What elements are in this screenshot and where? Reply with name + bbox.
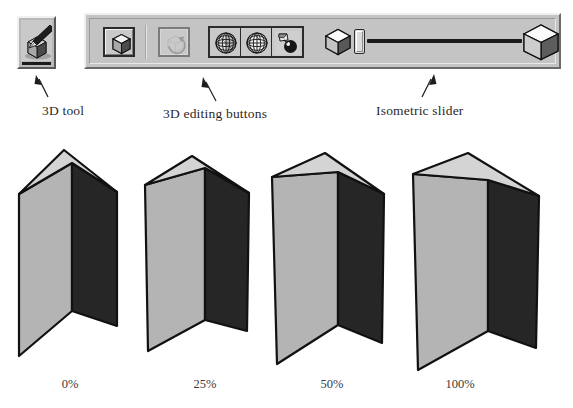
anno-isometric-slider-label: Isometric slider <box>376 103 464 119</box>
box-preview-50 <box>272 153 384 364</box>
box-caption-0: 0% <box>40 377 100 392</box>
lighting-button[interactable] <box>272 28 302 56</box>
3d-toolbar <box>84 13 561 69</box>
mesh-wireframe-button[interactable] <box>210 28 241 56</box>
globe-mesh-icon <box>214 31 238 55</box>
small-cube-icon <box>322 26 355 58</box>
create-3d-object-button[interactable] <box>103 27 135 57</box>
large-cube-icon <box>520 21 562 63</box>
pen-drawing-cube-icon <box>21 20 52 61</box>
anno-3d-editing-buttons-label: 3D editing buttons <box>163 106 267 122</box>
toolbar-separator <box>145 25 147 59</box>
globe-surface-icon <box>245 31 269 55</box>
isometric-slider-track[interactable] <box>367 39 522 43</box>
isometric-slider-thumb[interactable] <box>354 29 365 54</box>
3d-tool-selected-bar <box>22 62 51 65</box>
mesh-surface-button[interactable] <box>241 28 272 56</box>
box-caption-100: 100% <box>430 377 490 392</box>
rotate-3d-object-button[interactable] <box>158 27 190 57</box>
box-preview-100 <box>413 153 539 370</box>
box-preview-25 <box>145 156 249 351</box>
3d-editing-button-group <box>208 26 304 58</box>
anno-3d-tool-label: 3D tool <box>42 103 84 119</box>
rotate-cube-icon <box>165 33 187 55</box>
thumb-bevel <box>356 31 363 52</box>
arrow-3d-editing-buttons <box>202 77 217 101</box>
box-preview-0 <box>19 150 117 356</box>
3d-tool-button[interactable] <box>17 16 56 69</box>
arrow-isometric-slider <box>422 74 437 97</box>
3d-tool-icon-area <box>21 20 52 61</box>
arrow-3d-tool <box>35 75 49 97</box>
box-caption-25: 25% <box>175 377 235 392</box>
light-sphere-icon <box>275 31 300 55</box>
box-caption-50: 50% <box>302 377 362 392</box>
cube-icon <box>111 33 132 55</box>
